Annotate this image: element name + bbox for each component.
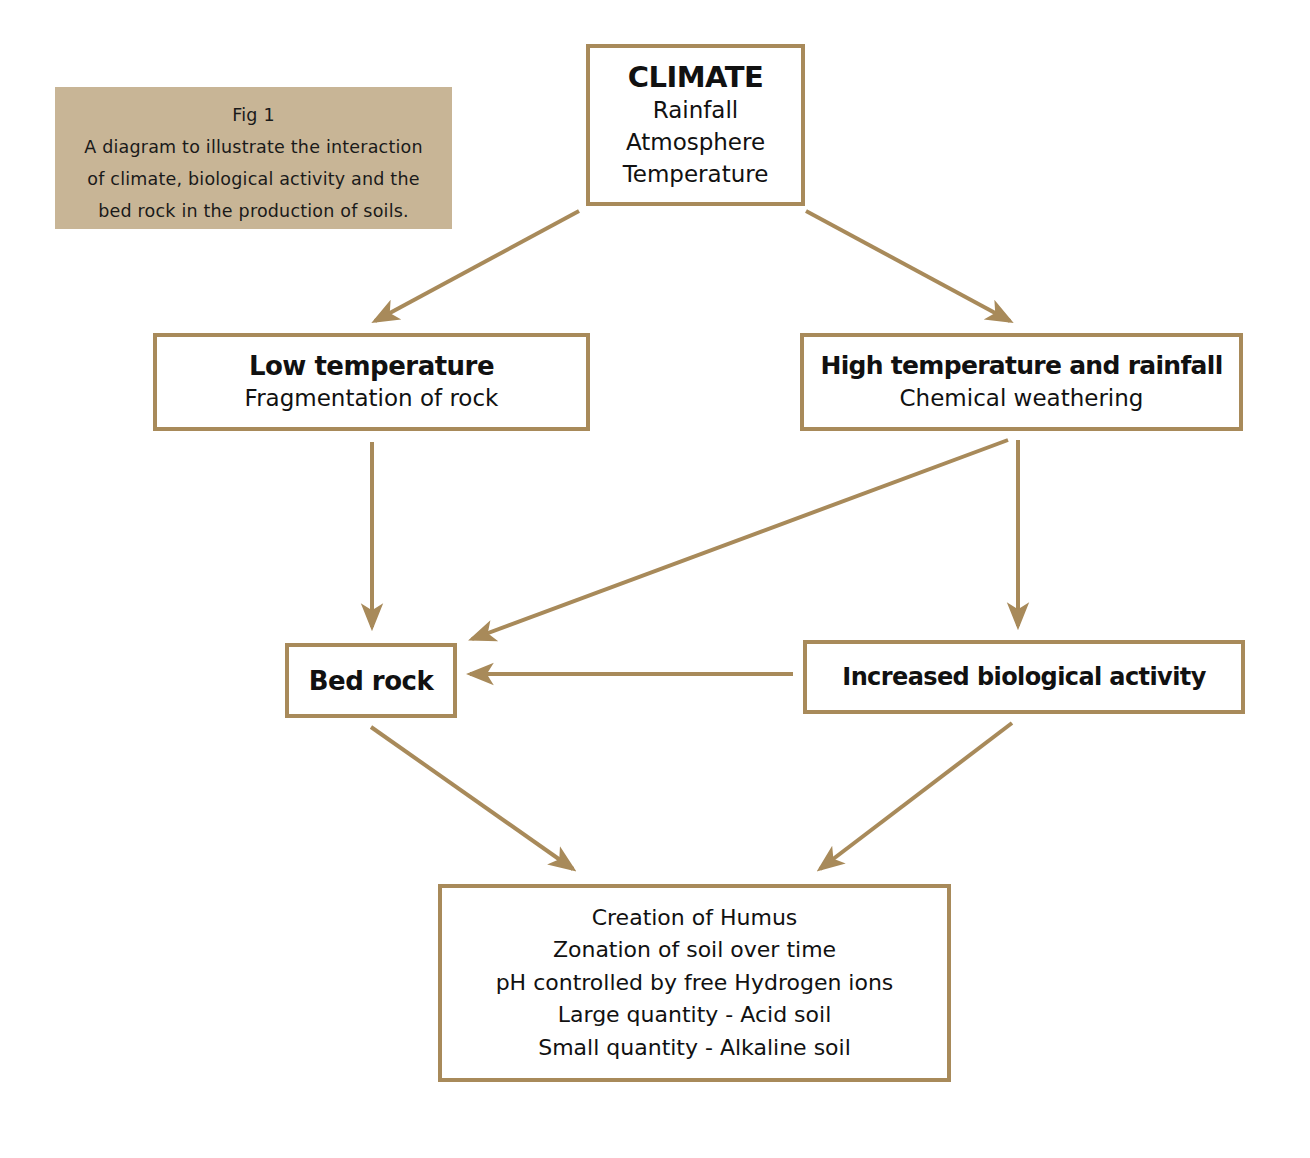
node-title: CLIMATE	[628, 60, 764, 94]
node-line: Creation of Humus	[592, 902, 798, 935]
node-climate: CLIMATE Rainfall Atmosphere Temperature	[586, 44, 805, 206]
node-title: Increased biological activity	[842, 661, 1205, 693]
arrow-bed-rock-to-soil-result	[371, 727, 573, 869]
node-line: Fragmentation of rock	[245, 382, 499, 414]
node-soil-result: Creation of Humus Zonation of soil over …	[438, 884, 951, 1082]
node-line: Large quantity - Acid soil	[558, 999, 832, 1032]
node-line: Rainfall	[653, 94, 739, 126]
arrow-high-temperature-to-bed-rock	[472, 440, 1008, 639]
node-high-temperature: High temperature and rainfall Chemical w…	[800, 333, 1243, 431]
node-line: Temperature	[623, 158, 769, 190]
node-line: Small quantity - Alkaline soil	[538, 1032, 851, 1065]
arrow-biological-activity-to-soil-result	[820, 723, 1012, 869]
node-line: Zonation of soil over time	[553, 934, 836, 967]
node-biological-activity: Increased biological activity	[803, 640, 1245, 714]
node-title: Low temperature	[249, 350, 494, 382]
arrow-climate-to-low-temperature	[375, 211, 579, 321]
node-line: Atmosphere	[626, 126, 765, 158]
node-title: Bed rock	[309, 665, 434, 697]
node-line: pH controlled by free Hydrogen ions	[496, 967, 894, 1000]
node-bed-rock: Bed rock	[285, 643, 457, 718]
node-low-temperature: Low temperature Fragmentation of rock	[153, 333, 590, 431]
node-line: Chemical weathering	[900, 382, 1144, 414]
node-title: High temperature and rainfall	[820, 350, 1222, 382]
arrow-climate-to-high-temperature	[806, 211, 1010, 321]
